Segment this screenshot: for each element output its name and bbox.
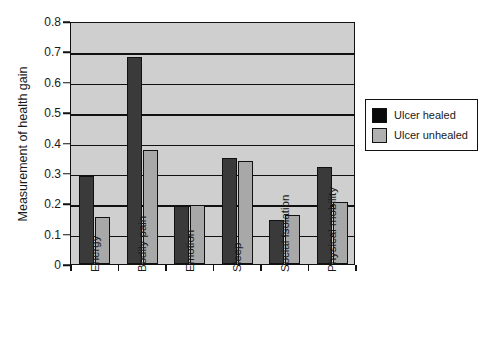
- y-tick-mark: [63, 52, 70, 54]
- y-tick-mark: [63, 264, 70, 266]
- legend-item: Ulcer unhealed: [372, 125, 471, 145]
- legend-swatch-healed: [372, 108, 387, 123]
- x-category-label-text: Bodily pain: [136, 216, 148, 272]
- y-tick-label: 0: [20, 258, 68, 272]
- x-tick-mark: [165, 265, 167, 271]
- legend-label: Ulcer healed: [394, 109, 456, 121]
- x-axis-ticks: [70, 265, 355, 271]
- chart-legend: Ulcer healedUlcer unhealed: [365, 99, 478, 151]
- x-category-label: Energy: [89, 272, 125, 360]
- y-tick-mark: [63, 234, 70, 236]
- y-tick-label: 0.6: [20, 76, 68, 90]
- x-tick-mark: [213, 265, 215, 271]
- x-category-label-text: Physical mobility: [326, 187, 338, 272]
- plot-area: [70, 22, 355, 265]
- legend-item: Ulcer healed: [372, 105, 471, 125]
- x-category-label-text: Emotion: [184, 230, 196, 272]
- bars-layer: [71, 23, 354, 264]
- x-tick-mark: [355, 265, 357, 271]
- y-tick-mark: [63, 21, 70, 23]
- x-category-label-text: Energy: [89, 236, 101, 272]
- x-category-label: Sleep: [231, 272, 260, 360]
- y-tick-label: 0.1: [20, 228, 68, 242]
- bar-group: [214, 23, 262, 264]
- y-tick-mark: [63, 173, 70, 175]
- x-category-label-text: Social Isolation: [279, 195, 291, 272]
- bar-group: [166, 23, 214, 264]
- bar-group: [71, 23, 119, 264]
- x-category-label: Physical mobility: [326, 272, 411, 360]
- x-axis-category-labels: EnergyBodily painEmotionSleepSocial Isol…: [70, 272, 355, 362]
- y-tick-label: 0.3: [20, 167, 68, 181]
- y-tick-mark: [63, 112, 70, 114]
- y-tick-mark: [63, 143, 70, 145]
- y-tick-label: 0.7: [20, 45, 68, 59]
- y-tick-label: 0.2: [20, 197, 68, 211]
- x-category-label-text: Sleep: [231, 243, 243, 272]
- x-tick-mark: [70, 265, 72, 271]
- legend-swatch-unhealed: [372, 128, 387, 143]
- y-tick-label: 0.5: [20, 106, 68, 120]
- x-tick-mark: [118, 265, 120, 271]
- y-tick-mark: [63, 82, 70, 84]
- y-tick-label: 0.8: [20, 15, 68, 29]
- legend-label: Ulcer unhealed: [394, 129, 468, 141]
- y-axis-tick-labels: 00.10.20.30.40.50.60.70.8: [20, 0, 68, 364]
- x-category-label: Emotion: [184, 272, 226, 360]
- x-tick-mark: [308, 265, 310, 271]
- chart-screenshot: Measurement of health gain 00.10.20.30.4…: [0, 0, 484, 364]
- x-tick-mark: [260, 265, 262, 271]
- y-tick-label: 0.4: [20, 137, 68, 151]
- y-tick-mark: [63, 204, 70, 206]
